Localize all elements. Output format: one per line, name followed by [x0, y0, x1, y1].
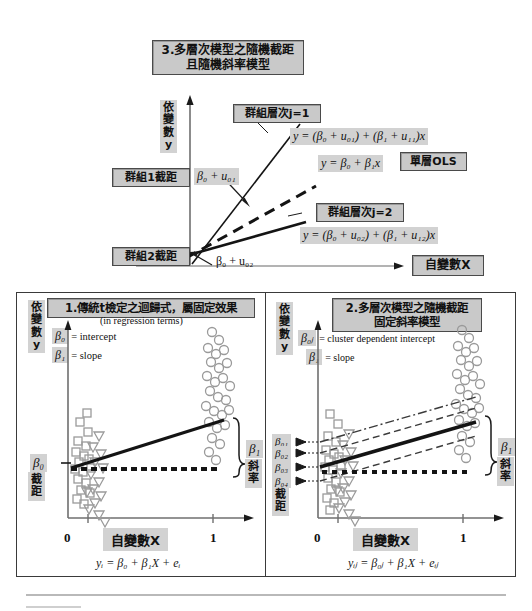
- equation-ols-text: y = β₀ + β₁x: [321, 156, 380, 170]
- panel2-x-axis-label-text: 自變數X: [361, 533, 410, 548]
- panel2-xtick-label-0: 0: [314, 530, 321, 546]
- panel1-x-axis-label: 自變數X: [103, 528, 168, 551]
- panel2-x-axis-arrow: [494, 515, 504, 522]
- callout-single-level-ols-label: 單層OLS: [410, 155, 456, 168]
- panel2-pooled-line: [320, 422, 476, 467]
- top-leader-j2: [288, 213, 302, 216]
- callout-cluster-level-2-label: 群組層次j=2: [328, 206, 393, 219]
- panel1-xtick-label-1-text: 1: [210, 530, 217, 545]
- panel2-intercept-arrows: [296, 438, 318, 485]
- equation-ols: y = β₀ + β₁x: [318, 155, 383, 172]
- panel2-cluster-line-1: [320, 397, 476, 442]
- callout-cluster-level-1: 群組層次j=1: [233, 104, 321, 123]
- panel1-x-axis-label-text: 自變數X: [111, 533, 160, 548]
- equation-group1: y = (β₀ + u₀₁) + (β₁ + u₁₁)x: [290, 128, 428, 145]
- callout-group1-intercept-label: 群組1截距: [125, 171, 177, 184]
- panel2-slope-label-c1: 率: [498, 471, 513, 483]
- panel1-xtick-label-1: 1: [210, 530, 217, 546]
- panel2-xtick-label-1-text: 1: [460, 530, 467, 545]
- panel2-equation: yᵢⱼ = β₀ⱼ + β₁X + eᵢⱼ: [348, 556, 438, 571]
- panel1-slope-symbol: β₁: [246, 440, 263, 458]
- panel2-xtick-label-0-text: 0: [314, 530, 321, 545]
- panel1-intercept-label-c1: 距: [29, 486, 44, 498]
- panel1-regression-line: [71, 420, 224, 468]
- panel1-equation: yᵢ = β₀ + β₁X + eᵢ: [96, 556, 180, 571]
- panel2-intercept-symbol-3-text: β₀₄: [275, 475, 288, 487]
- callout-group1-intercept: 群組1截距: [112, 168, 190, 187]
- panel1-slope-label: 斜 率: [245, 459, 262, 488]
- panel2-slope-symbol-text: β₁: [501, 439, 512, 454]
- top-x-axis-label: 自變數X: [412, 255, 484, 276]
- panel1-x-axis-arrow: [244, 515, 254, 522]
- panel1-slope-symbol-text: β₁: [249, 441, 260, 456]
- panel2-intercept-symbol-1: β₀₂: [272, 446, 291, 460]
- equation-group2: y = (β₀ + u₀₂) + (β₁ + u₁₂)x: [300, 227, 438, 244]
- callout-group1-intercept-value: β₀ + u₀₁: [194, 168, 239, 185]
- panel2-intercept-symbol-2-text: β₀₃: [275, 461, 288, 473]
- panel1-scatter-circles: [202, 328, 235, 465]
- footer-rule-long: [26, 594, 506, 596]
- panel2-intercept-symbol-3: β₀₄: [272, 474, 291, 488]
- callout-group2-intercept-value-text: β₀ + u₀₂: [216, 254, 253, 268]
- panel2-intercept-label-c1: 距: [273, 501, 288, 513]
- equation-group1-text: y = (β₀ + u₀₁) + (β₁ + u₁₁)x: [293, 129, 425, 143]
- panel2-intercept-label: 截 距: [272, 487, 289, 516]
- callout-cluster-level-2: 群組層次j=2: [316, 203, 404, 222]
- panel2-y-axis-arrow: [315, 320, 322, 330]
- panel1-slope-label-c1: 率: [246, 473, 261, 485]
- panel2-intercept-symbol-1-text: β₀₂: [275, 447, 288, 459]
- panel2-slope-symbol: β₁: [498, 438, 515, 456]
- top-line-ols: [186, 186, 316, 258]
- callout-single-level-ols: 單層OLS: [400, 152, 467, 171]
- panel1-slope-brace: [233, 418, 245, 473]
- panel1-y-axis-arrow: [65, 320, 72, 330]
- top-line-group1: [192, 124, 300, 264]
- top-chart-canvas: [0, 0, 532, 292]
- panel2-x-axis-label: 自變數X: [353, 528, 418, 551]
- top-x-axis-label-text: 自變數X: [425, 258, 470, 272]
- callout-group1-intercept-value-text: β₀ + u₀₁: [197, 169, 236, 183]
- panel2-equation-text: yᵢⱼ = β₀ⱼ + β₁X + eᵢⱼ: [348, 556, 438, 570]
- top-leader-j1: [258, 123, 268, 133]
- callout-group2-intercept-label: 群組2截距: [125, 250, 177, 263]
- equation-group2-text: y = (β₀ + u₀₂) + (β₁ + u₁₂)x: [303, 228, 435, 242]
- callout-cluster-level-1-label: 群組層次j=1: [245, 107, 310, 120]
- top-y-axis-arrow: [186, 95, 193, 105]
- footer-rule-short: [26, 606, 81, 608]
- callout-group2-intercept: 群組2截距: [112, 247, 190, 266]
- panel1-xtick-label-0-text: 0: [64, 530, 71, 545]
- panel1-equation-text: yᵢ = β₀ + β₁X + eᵢ: [96, 556, 180, 570]
- panel1-xtick-label-0: 0: [64, 530, 71, 546]
- panel2-slope-brace: [485, 416, 497, 471]
- panel2-xtick-label-1: 1: [460, 530, 467, 546]
- panel2-scatter-circles: [452, 326, 485, 463]
- panel1-intercept-symbol: β₀: [30, 454, 47, 472]
- callout-group2-intercept-value: β₀ + u₀₂: [216, 254, 253, 269]
- panel2-slope-label: 斜 率: [497, 457, 514, 486]
- panel1-intercept-symbol-text: β₀: [33, 455, 44, 470]
- panel1-intercept-label: 截 距: [28, 472, 45, 501]
- figure-root: 3.多層次模型之隨機截距 且隨機斜率模型 依 變 數 y: [0, 0, 532, 611]
- top-x-axis-arrow: [394, 262, 404, 269]
- panel2-intercept-symbol-2: β₀₃: [272, 460, 291, 474]
